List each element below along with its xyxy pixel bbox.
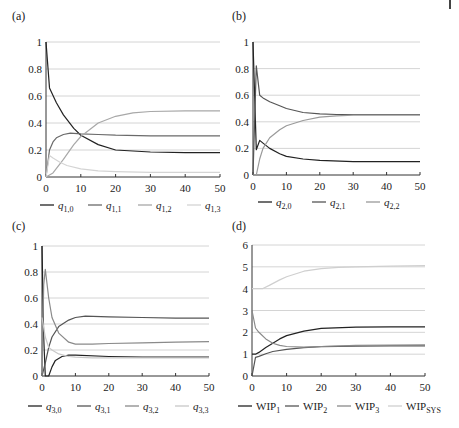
legend: q3,0q3,1q3,2q3,3 bbox=[28, 400, 209, 415]
y-tick-label: 0.2 bbox=[235, 142, 249, 154]
legend: q1,0q1,1q1,2q1,3 bbox=[40, 199, 221, 214]
x-tick-label: 30 bbox=[348, 180, 360, 192]
x-tick-label: 40 bbox=[170, 381, 182, 393]
y-tick-label: 0.8 bbox=[235, 63, 249, 75]
legend-label: q1,3 bbox=[205, 199, 221, 214]
chart-panel-d: (d)012345601020304050WIP1WIP2WIP3WIPSYS bbox=[232, 219, 441, 415]
page-edge-mark bbox=[449, 0, 451, 9]
y-tick-label: 6 bbox=[243, 239, 249, 251]
x-tick-label: 20 bbox=[316, 381, 328, 393]
y-tick-label: 0.6 bbox=[28, 90, 42, 102]
legend-label: q3,2 bbox=[143, 400, 159, 415]
series-line-WIP1 bbox=[252, 327, 425, 354]
x-tick-label: 50 bbox=[420, 381, 432, 393]
x-tick-label: 10 bbox=[75, 182, 87, 194]
legend-label: q1,1 bbox=[106, 199, 122, 214]
series-line-q13 bbox=[46, 155, 220, 177]
x-tick-label: 10 bbox=[70, 381, 82, 393]
panel-label: (c) bbox=[12, 219, 25, 233]
x-tick-label: 40 bbox=[180, 182, 192, 194]
legend-label: q2,2 bbox=[384, 196, 400, 211]
y-tick-label: 3 bbox=[243, 305, 249, 317]
series-line-WIP2 bbox=[252, 346, 425, 376]
x-tick-label: 50 bbox=[204, 381, 216, 393]
legend-label: q3,0 bbox=[46, 400, 62, 415]
series-line-q31 bbox=[42, 316, 209, 376]
y-tick-label: 0.4 bbox=[28, 117, 42, 129]
x-tick-label: 20 bbox=[314, 180, 326, 192]
figure: (a)00.20.40.60.8101020304050q1,0q1,1q1,2… bbox=[0, 0, 459, 428]
x-tick-label: 50 bbox=[215, 182, 227, 194]
series-line-q22 bbox=[253, 115, 420, 175]
legend-label: q2,0 bbox=[276, 196, 292, 211]
y-tick-label: 0.8 bbox=[28, 63, 42, 75]
y-tick-label: 4 bbox=[243, 283, 249, 295]
series-line-q32 bbox=[42, 269, 209, 376]
y-tick-label: 0 bbox=[243, 370, 249, 382]
y-tick-label: 2 bbox=[243, 326, 249, 338]
x-tick-label: 20 bbox=[110, 182, 122, 194]
legend-label: WIP3 bbox=[355, 400, 379, 415]
legend-label: q2,1 bbox=[330, 196, 346, 211]
y-tick-label: 1 bbox=[37, 36, 43, 48]
y-tick-label: 0 bbox=[37, 171, 43, 183]
legend-label: q1,0 bbox=[58, 199, 74, 214]
chart-panel-a: (a)00.20.40.60.8101020304050q1,0q1,1q1,2… bbox=[12, 9, 226, 214]
x-tick-label: 0 bbox=[249, 381, 255, 393]
legend-label: WIP2 bbox=[303, 400, 327, 415]
y-tick-label: 0.6 bbox=[235, 89, 249, 101]
series-line-q20 bbox=[253, 42, 420, 162]
legend-label: q3,3 bbox=[193, 400, 209, 415]
x-tick-label: 50 bbox=[415, 180, 427, 192]
legend: q2,0q2,1q2,2 bbox=[258, 196, 400, 211]
panel-label: (b) bbox=[232, 9, 246, 23]
y-tick-label: 1 bbox=[243, 348, 249, 360]
x-tick-label: 30 bbox=[145, 182, 157, 194]
series-line-q21 bbox=[253, 66, 420, 175]
y-tick-label: 1 bbox=[244, 36, 250, 48]
x-tick-label: 30 bbox=[137, 381, 149, 393]
panel-label: (d) bbox=[232, 219, 246, 233]
x-tick-label: 40 bbox=[381, 180, 393, 192]
x-tick-label: 30 bbox=[350, 381, 362, 393]
x-tick-label: 0 bbox=[250, 180, 256, 192]
series-line-q33 bbox=[42, 318, 209, 358]
y-tick-label: 0.8 bbox=[24, 266, 38, 278]
x-tick-label: 0 bbox=[43, 182, 49, 194]
series-line-WIPSYS bbox=[252, 266, 425, 289]
y-tick-label: 1 bbox=[33, 240, 39, 252]
y-tick-label: 0.6 bbox=[24, 292, 38, 304]
series-line-WIP3 bbox=[252, 311, 425, 348]
x-tick-label: 20 bbox=[103, 381, 115, 393]
chart-panel-c: (c)00.20.40.60.8101020304050q3,0q3,1q3,2… bbox=[12, 219, 215, 415]
y-tick-label: 0.2 bbox=[24, 344, 38, 356]
legend: WIP1WIP2WIP3WIPSYS bbox=[238, 400, 441, 415]
series-line-q11 bbox=[46, 133, 220, 177]
chart-figure: (a)00.20.40.60.8101020304050q1,0q1,1q1,2… bbox=[0, 0, 459, 428]
legend-label: WIPSYS bbox=[406, 400, 441, 415]
legend-label: q1,2 bbox=[156, 199, 172, 214]
y-tick-label: 5 bbox=[243, 261, 249, 273]
legend-label: q3,1 bbox=[95, 400, 111, 415]
panel-label: (a) bbox=[12, 9, 25, 23]
chart-panel-b: (b)00.20.40.60.8101020304050q2,0q2,1q2,2 bbox=[232, 9, 426, 211]
x-tick-label: 10 bbox=[281, 381, 293, 393]
x-tick-label: 0 bbox=[39, 381, 45, 393]
y-tick-label: 0.4 bbox=[24, 318, 38, 330]
y-tick-label: 0.4 bbox=[235, 116, 249, 128]
x-tick-label: 40 bbox=[385, 381, 397, 393]
y-tick-label: 0 bbox=[244, 169, 250, 181]
y-tick-label: 0 bbox=[33, 370, 39, 382]
y-tick-label: 0.2 bbox=[28, 144, 42, 156]
legend-label: WIP1 bbox=[256, 400, 280, 415]
x-tick-label: 10 bbox=[281, 180, 293, 192]
